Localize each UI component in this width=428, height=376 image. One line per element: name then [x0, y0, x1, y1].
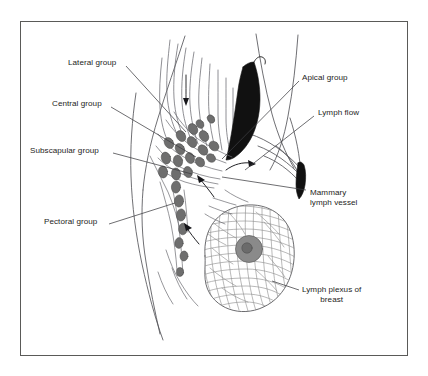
label-central-group: Central group — [52, 99, 102, 109]
label-mammary-line-2: lymph vessel — [310, 198, 357, 208]
leader-mammary-vessel — [222, 177, 306, 190]
label-lateral-group: Lateral group — [68, 58, 116, 68]
lymph-vessel-strands-superior — [160, 40, 237, 154]
label-pectoral-group: Pectoral group — [44, 217, 97, 227]
latissimus-wedge — [296, 162, 306, 199]
label-mammary-lymph-vessel: Mammary lymph vessel — [310, 188, 357, 207]
anatomy-figure: Lateral group Central group Subscapular … — [0, 0, 428, 376]
label-lymph-plexus-of-breast: Lymph plexus of breast — [302, 285, 361, 304]
pectoralis-muscle — [226, 57, 265, 160]
flow-arrow-superior — [183, 75, 189, 106]
breast-lymph-plexus — [196, 200, 298, 312]
label-mammary-line-1: Mammary — [310, 188, 357, 198]
arm-contour — [256, 34, 298, 170]
label-plexus-line-2: breast — [302, 295, 361, 305]
label-subscapular-group: Subscapular group — [30, 146, 99, 156]
axillary-fold-arcs — [250, 118, 301, 181]
anatomy-illustration — [0, 0, 428, 376]
label-plexus-line-1: Lymph plexus of — [302, 285, 361, 295]
label-apical-group: Apical group — [302, 73, 348, 83]
areola — [236, 236, 263, 263]
label-lymph-flow: Lymph flow — [318, 108, 359, 118]
